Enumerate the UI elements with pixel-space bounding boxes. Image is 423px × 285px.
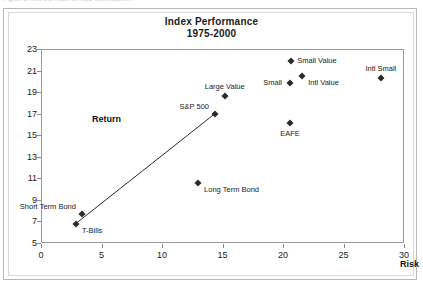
figure-page: Figure 1. Risk and return of major asset… [0,0,423,285]
chart-title: Index Performance [0,16,423,28]
data-point-marker[interactable] [211,110,218,117]
x-tick-label: 15 [217,250,227,260]
plot-area: Return Risk T-BillsShort Term BondLong T… [41,49,404,243]
data-point-label: Small [263,78,282,87]
data-point-label: Short Term Bond [20,202,76,211]
chart-subtitle: 1975-2000 [0,28,423,40]
data-point-marker[interactable] [72,220,79,227]
data-point-label: EAFE [280,129,300,138]
data-point-label: Long Term Bond [204,185,259,194]
y-tick-label: 7 [13,216,37,226]
x-tick-mark [283,244,284,248]
y-axis-title: Return [92,114,121,124]
figure-caption-strip: Figure 1. Risk and return of major asset… [0,0,423,7]
data-point-marker[interactable] [221,93,228,100]
figure-caption-text: Figure 1. Risk and return of major asset… [4,0,131,2]
x-tick-mark [41,244,42,248]
y-tick-label: 23 [13,44,37,54]
data-point-label: Large Value [205,82,245,91]
x-tick-mark [102,244,103,248]
x-tick-mark [344,244,345,248]
data-point-marker[interactable] [299,72,306,79]
data-point-marker[interactable] [78,210,85,217]
x-tick-mark [223,244,224,248]
y-axis-labels: 57911131517192123 [10,49,37,243]
y-tick-label: 13 [13,152,37,162]
data-point-label: S&P 500 [180,102,209,111]
x-axis-labels: 051015202530 [41,244,404,264]
y-tick-label: 15 [13,130,37,140]
data-point-marker[interactable] [288,57,295,64]
x-axis-title: Risk [400,259,419,269]
y-tick-label: 11 [13,173,37,183]
data-point-marker[interactable] [377,74,384,81]
data-point-label: T-Bills [82,226,102,235]
capital-market-line [42,50,405,244]
x-tick-label: 10 [157,250,167,260]
chart-title-block: Index Performance 1975-2000 [0,16,423,40]
x-tick-label: 0 [38,250,43,260]
data-point-label: Intl Small [365,64,396,73]
data-point-label: Intl Value [308,78,339,87]
data-point-label: Small Value [297,56,336,65]
data-point-marker[interactable] [287,120,294,127]
x-tick-label: 20 [278,250,288,260]
y-tick-label: 17 [13,109,37,119]
data-point-marker[interactable] [195,179,202,186]
x-tick-mark [162,244,163,248]
data-point-marker[interactable] [287,80,294,87]
y-tick-label: 21 [13,66,37,76]
x-tick-label: 25 [338,250,348,260]
y-tick-label: 19 [13,87,37,97]
y-tick-label: 5 [13,238,37,248]
x-tick-mark [404,244,405,248]
x-tick-label: 5 [99,250,104,260]
